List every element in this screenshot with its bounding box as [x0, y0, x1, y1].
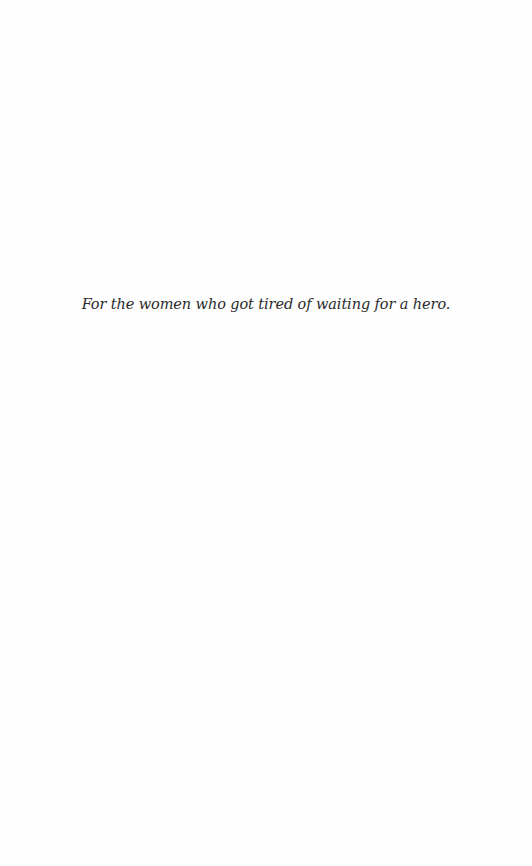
book-page: For the women who got tired of waiting f… — [0, 0, 532, 866]
dedication-text: For the women who got tired of waiting f… — [0, 293, 532, 315]
